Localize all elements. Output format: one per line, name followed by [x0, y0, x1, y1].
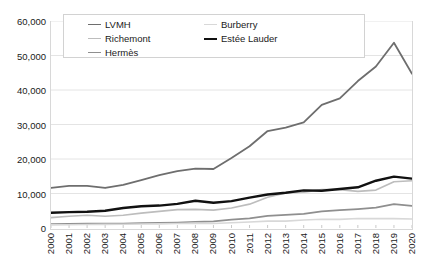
y-tick-label: 30,000: [0, 121, 46, 131]
x-tick-label: 2016: [335, 233, 345, 254]
y-axis: 010,00020,00030,00040,00050,00060,000: [0, 21, 46, 230]
legend-entry[interactable]: Richemont: [88, 32, 150, 45]
legend-swatch-icon: [88, 38, 101, 39]
x-tick-label: 2008: [190, 233, 200, 254]
y-tick-label: 10,000: [0, 190, 46, 200]
legend-column-right: BurberryEstée Lauder: [204, 18, 278, 46]
x-tick-label: 2000: [46, 233, 56, 254]
legend-entry[interactable]: Burberry: [204, 18, 278, 31]
line-chart: 010,00020,00030,00040,00050,00060,000 20…: [0, 0, 426, 277]
x-tick-label: 2005: [136, 233, 146, 254]
x-axis: 2000200120022003200420052006200720082009…: [50, 231, 413, 277]
legend-swatch-icon: [88, 52, 101, 53]
legend-label: Burberry: [221, 19, 257, 30]
y-tick-label: 50,000: [0, 52, 46, 62]
x-tick-label: 2018: [371, 233, 381, 254]
legend-entry[interactable]: Hermès: [88, 46, 150, 59]
y-tick-label: 0: [0, 224, 46, 234]
legend-label: Hermès: [105, 47, 138, 58]
x-tick-label: 2015: [317, 233, 327, 254]
y-tick-label: 20,000: [0, 155, 46, 165]
x-tick-label: 2017: [353, 233, 363, 254]
x-tick-label: 2014: [299, 233, 309, 254]
x-tick-label: 2003: [100, 233, 110, 254]
x-tick-label: 2007: [172, 233, 182, 254]
x-tick-label: 2013: [281, 233, 291, 254]
legend-column-left: LVMHRichemontHermès: [88, 18, 150, 60]
x-tick-label: 2009: [208, 233, 218, 254]
legend-swatch-icon: [204, 38, 217, 40]
legend-entry[interactable]: LVMH: [88, 18, 150, 31]
x-tick-label: 2012: [263, 233, 273, 254]
y-tick-label: 60,000: [0, 17, 46, 27]
chart-legend: LVMHRichemontHermès BurberryEstée Lauder: [63, 14, 365, 58]
legend-label: Richemont: [105, 33, 150, 44]
x-tick-label: 2019: [389, 233, 399, 254]
x-tick-label: 2006: [154, 233, 164, 254]
series-line-lvmh: [51, 43, 412, 188]
legend-swatch-icon: [204, 24, 217, 25]
x-tick-label: 2011: [245, 233, 255, 253]
x-tick-label: 2010: [227, 233, 237, 254]
x-tick-label: 2020: [407, 233, 417, 254]
legend-label: LVMH: [105, 19, 131, 30]
x-tick-label: 2002: [82, 233, 92, 254]
legend-entry[interactable]: Estée Lauder: [204, 32, 278, 45]
legend-label: Estée Lauder: [221, 33, 278, 44]
x-tick-label: 2004: [118, 233, 128, 254]
x-tick-label: 2001: [64, 233, 74, 254]
legend-swatch-icon: [88, 24, 101, 25]
y-tick-label: 40,000: [0, 86, 46, 96]
